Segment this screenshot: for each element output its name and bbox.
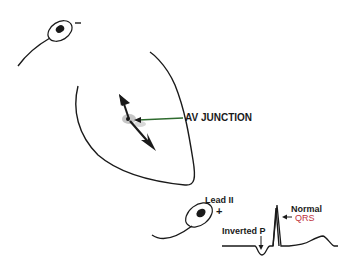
diagram-canvas: AV JUNCTION Lead II + Inverted P Normal … — [0, 0, 338, 266]
av-junction-label: AV JUNCTION — [185, 113, 252, 123]
negative-electrode — [18, 16, 76, 66]
plus-sign-label: + — [216, 206, 222, 217]
qrs-pointer — [282, 215, 292, 220]
qrs-label: QRS — [295, 214, 315, 223]
inverted-p-pointer — [259, 236, 264, 250]
inverted-p-label: Inverted P — [222, 227, 266, 236]
lead-ii-label: Lead II — [205, 196, 234, 205]
